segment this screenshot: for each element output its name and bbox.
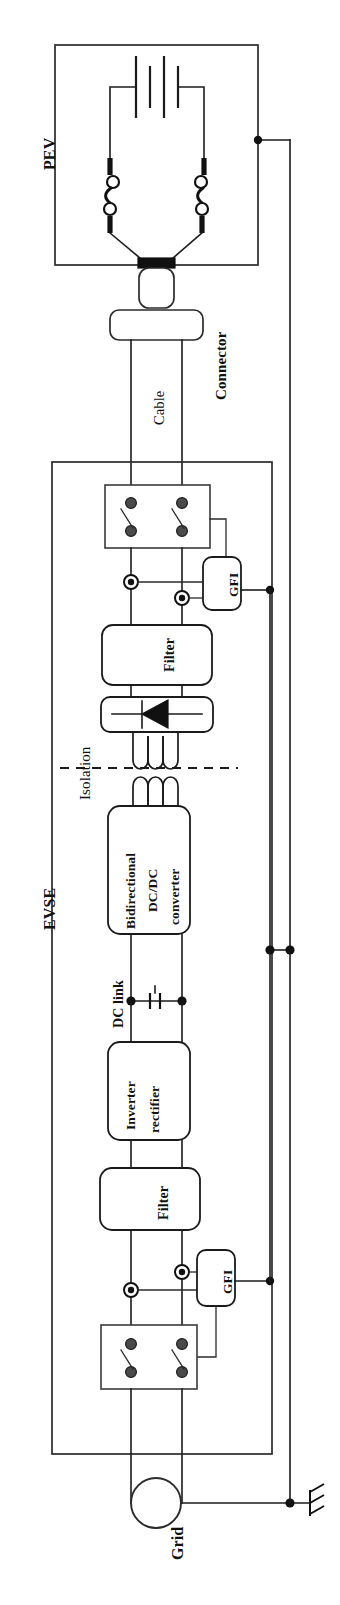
schematic-diagram: PEV Connector Cable Isolation EVSE DC li… [0, 0, 340, 1605]
input-contactor-box [101, 1325, 197, 1389]
evse-enclosure [52, 462, 272, 1454]
pev-label: PEV [42, 138, 59, 170]
input-ct-2 [175, 1265, 189, 1279]
dc-link-capacitor-icon [131, 986, 182, 1009]
output-contactor-trip-link [210, 519, 226, 557]
inverter-rectifier-label-line2: rectifier [148, 1086, 162, 1133]
junction-dot [254, 136, 262, 144]
transformer-primary-winding [133, 777, 178, 810]
filter-output-box [102, 625, 212, 685]
battery-lead-left [110, 87, 136, 160]
output-ct-2 [175, 591, 189, 605]
dc-link-label: DC link [112, 980, 127, 1028]
connector-label: Connector [214, 332, 230, 400]
inverter-rectifier-label-line1: Inverter [124, 1081, 138, 1130]
pev-contactor-left [104, 158, 119, 233]
gfi-output-label: GFI [227, 573, 241, 597]
connector-socket [110, 310, 203, 340]
filter-output-label: Filter [163, 638, 178, 672]
pe-bus-tie [265, 945, 294, 954]
output-contactor-box [105, 485, 210, 548]
dcdc-converter-label-line2: DC/DC [146, 869, 160, 912]
dcdc-converter-label-line3: converter [168, 869, 182, 925]
dcdc-converter-label-line1: Bidirectional [124, 853, 138, 929]
pev-plug-lead-right [173, 233, 202, 258]
gfi-input-label: GFI [221, 1270, 235, 1294]
battery-lead-right [178, 87, 204, 160]
pev-plug-lead-left [110, 233, 140, 258]
output-ct-1 [124, 575, 138, 589]
evse-label: EVSE [42, 888, 59, 930]
filter-input-box [100, 1168, 200, 1230]
isolation-label: Isolation [78, 747, 94, 800]
transformer-secondary-winding [133, 732, 178, 769]
input-ct-1 [124, 1283, 138, 1297]
battery-icon [136, 56, 178, 118]
input-contactor-trip-link [197, 1306, 216, 1357]
grid-source-icon [131, 1478, 181, 1528]
grid-label: Grid [170, 1527, 187, 1560]
pev-contactor-right [195, 158, 208, 233]
pev-enclosure [55, 45, 258, 265]
schematic-canvas [0, 0, 340, 1605]
cable-label: Cable [152, 391, 167, 425]
plug-contact-tip [138, 258, 175, 268]
ground-icon [310, 1484, 324, 1516]
filter-input-label: Filter [157, 1186, 172, 1220]
plug-body [139, 268, 174, 308]
